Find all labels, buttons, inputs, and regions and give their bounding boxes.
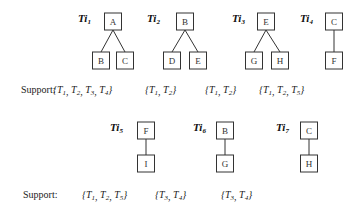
frequent-subtree-figure: Support:Ti1ABC{T1, T2, T3, T4}Ti2BDE{T1,… [0,0,363,209]
tree-node-label: E [263,17,269,27]
tree-node-label: D [169,56,176,66]
tree-node-label: E [195,56,201,66]
tree-label: Ti5 [110,121,123,135]
tree-node-label: A [110,17,117,27]
tree-node-label: B [222,126,228,136]
support-set: {T1, T2, T5} [82,189,127,202]
tree-node-label: C [122,56,128,66]
tree-label: Ti1 [78,12,91,26]
tree-edge [266,30,280,52]
tree-node-label: B [182,17,188,27]
tree-node-label: C [331,17,337,27]
tree-node-label: G [222,159,229,169]
tree-edge [113,30,125,52]
tree-node-label: F [143,126,148,136]
tree-node-label: G [251,56,258,66]
tree-edge [101,30,113,52]
support-label: Support: [23,189,57,200]
tree-node-label: F [331,56,336,66]
support-set: {T1, T2, T5} [259,84,304,97]
tree-label: Ti2 [147,12,160,26]
support-label: Support: [21,84,55,95]
support-set: {T3, T4} [221,189,252,202]
diagram-canvas: Support:Ti1ABC{T1, T2, T3, T4}Ti2BDE{T1,… [0,0,363,209]
support-set: {T1, T2} [205,84,236,97]
tree-edge [254,30,266,52]
tree-label: Ti7 [276,121,289,135]
tree-edge [172,30,185,52]
tree-node-label: C [306,126,312,136]
tree-node-label: I [145,159,148,169]
tree-label: Ti3 [232,12,245,26]
tree-node-label: H [306,159,313,169]
support-set: {T1, T2} [145,84,176,97]
support-set: {T1, T2, T3, T4} [53,84,112,97]
support-set: {T3, T4} [155,189,186,202]
tree-label: Ti4 [300,12,313,26]
tree-node-label: B [98,56,104,66]
tree-label: Ti6 [193,121,206,135]
tree-node-label: H [277,56,284,66]
tree-edge [185,30,198,52]
